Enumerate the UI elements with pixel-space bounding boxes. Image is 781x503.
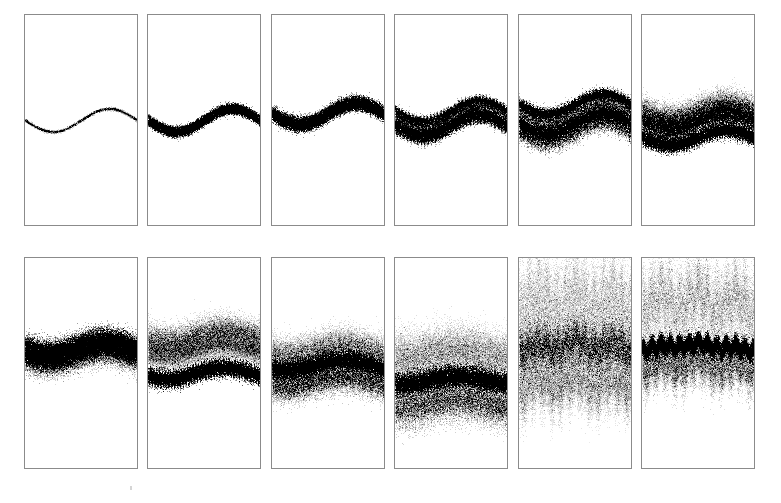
panel-6-plot bbox=[642, 15, 754, 225]
panel-12-plot bbox=[642, 258, 754, 468]
panel-7 bbox=[24, 257, 138, 469]
panel-10 bbox=[394, 257, 508, 469]
panel-12 bbox=[641, 257, 755, 469]
panel-5 bbox=[518, 14, 632, 226]
panel-1-plot bbox=[25, 15, 137, 225]
panel-11 bbox=[518, 257, 632, 469]
panel-3 bbox=[271, 14, 385, 226]
figure-root bbox=[0, 0, 781, 503]
panel-6 bbox=[641, 14, 755, 226]
panel-8 bbox=[147, 257, 261, 469]
page-speck bbox=[130, 486, 132, 490]
panel-4 bbox=[394, 14, 508, 226]
panel-10-plot bbox=[395, 258, 507, 468]
panel-7-plot bbox=[25, 258, 137, 468]
panel-3-plot bbox=[272, 15, 384, 225]
panel-2-plot bbox=[148, 15, 260, 225]
panel-1 bbox=[24, 14, 138, 226]
panel-9 bbox=[271, 257, 385, 469]
panel-2 bbox=[147, 14, 261, 226]
panel-8-plot bbox=[148, 258, 260, 468]
panel-9-plot bbox=[272, 258, 384, 468]
panel-4-plot bbox=[395, 15, 507, 225]
panel-11-plot bbox=[519, 258, 631, 468]
panel-5-plot bbox=[519, 15, 631, 225]
